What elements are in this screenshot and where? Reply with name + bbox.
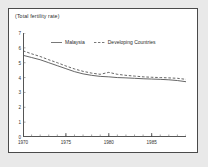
- y-tick-label: 6: [18, 45, 21, 50]
- y-tick-label: 1: [18, 120, 21, 125]
- x-tick-label: 1975: [61, 140, 71, 145]
- series-line-developing-countries: [23, 51, 186, 80]
- plot-area: 01234567 1970197519801985: [23, 33, 186, 137]
- x-tick-label: 1985: [147, 140, 157, 145]
- plot-canvas: [23, 33, 186, 137]
- chart-title: (Total fertility rate): [15, 13, 60, 19]
- y-tick-label: 0: [18, 135, 21, 140]
- x-tick-label: 1980: [104, 140, 114, 145]
- y-tick-label: 5: [18, 60, 21, 65]
- chart-figure: (Total fertility rate) Malaysia Developi…: [8, 8, 198, 153]
- y-tick-label: 7: [18, 31, 21, 36]
- y-tick-label: 3: [18, 90, 21, 95]
- y-tick-label: 2: [18, 105, 21, 110]
- x-tick-label: 1970: [18, 140, 28, 145]
- y-tick-label: 4: [18, 75, 21, 80]
